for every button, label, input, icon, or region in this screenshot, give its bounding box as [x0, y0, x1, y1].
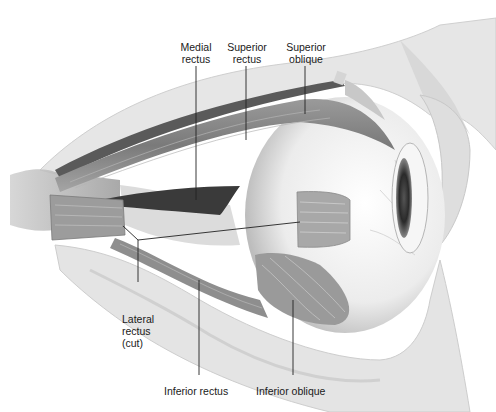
label-superior-rectus: Superior rectus: [224, 41, 270, 65]
label-inferior-oblique: Inferior oblique: [256, 385, 346, 397]
label-inferior-rectus: Inferior rectus: [164, 385, 254, 397]
label-medial-rectus: Medial rectus: [176, 41, 216, 65]
lateral-rectus-stump-origin: [50, 195, 125, 240]
label-superior-oblique: Superior oblique: [283, 41, 329, 65]
label-lateral-rectus: Lateral rectus (cut): [122, 313, 172, 349]
cornea: [392, 143, 428, 253]
lateral-rectus-stump-insertion: [297, 192, 350, 248]
